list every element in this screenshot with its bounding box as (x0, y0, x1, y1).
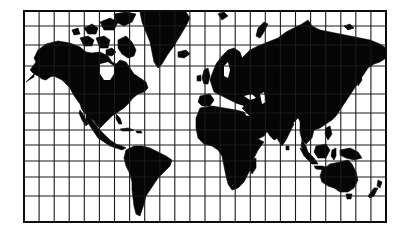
landmasses (26, 12, 386, 216)
aleutian-peninsula (26, 74, 34, 82)
iceland (178, 50, 190, 58)
sri-lanka (286, 146, 289, 150)
borneo (314, 144, 330, 158)
greenland (140, 12, 190, 68)
svalbard (218, 12, 228, 20)
arctic-island-5 (72, 28, 80, 35)
baffin-island (118, 36, 136, 58)
world-map (0, 0, 403, 234)
new-siberian-islands (344, 24, 354, 30)
great-britain (202, 68, 210, 84)
hispaniola (136, 131, 142, 133)
novaya-zemlya (256, 22, 268, 38)
ireland (197, 75, 201, 81)
arctic-island-4 (96, 36, 110, 48)
new-zealand-north (377, 180, 382, 188)
florida (116, 114, 122, 124)
new-guinea (340, 148, 362, 160)
sulawesi (331, 148, 336, 160)
south-america (124, 146, 172, 216)
indian-subcontinent (274, 118, 294, 146)
world-map-canvas (0, 0, 403, 234)
